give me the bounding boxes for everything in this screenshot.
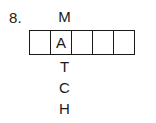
answer-box-cell-1[interactable] — [29, 30, 51, 55]
problem-number: 8. — [9, 10, 22, 26]
answer-box-cell-3[interactable] — [71, 30, 93, 55]
vertical-word-letter-c: C — [53, 80, 76, 96]
vertical-word-letter-m: M — [53, 9, 76, 25]
answer-box-row: A — [29, 30, 135, 55]
answer-box-cell-4[interactable] — [92, 30, 114, 55]
worksheet-problem: 8. A M T C H — [0, 0, 156, 123]
answer-box-cell-5[interactable] — [113, 30, 135, 55]
answer-box-letter-2: A — [56, 35, 66, 50]
answer-box-cell-2[interactable]: A — [50, 30, 72, 55]
vertical-word-letter-t: T — [53, 59, 76, 75]
vertical-word-letter-h: H — [53, 101, 76, 117]
